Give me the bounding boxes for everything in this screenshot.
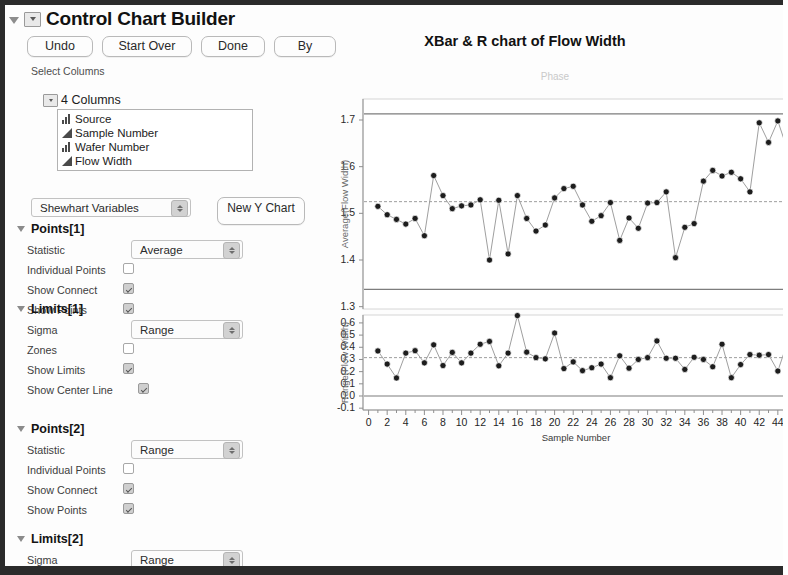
data-point[interactable] bbox=[719, 341, 725, 347]
data-point[interactable] bbox=[775, 118, 781, 124]
section-header-points2[interactable]: Points[2] bbox=[17, 422, 84, 436]
data-point[interactable] bbox=[765, 351, 771, 357]
data-point[interactable] bbox=[663, 189, 669, 195]
data-point[interactable] bbox=[617, 237, 623, 243]
data-point[interactable] bbox=[728, 169, 734, 175]
list-item[interactable]: Sample Number bbox=[62, 126, 252, 140]
data-point[interactable] bbox=[579, 368, 585, 374]
list-item[interactable]: Flow Width bbox=[62, 154, 252, 168]
section-header-limits2[interactable]: Limits[2] bbox=[17, 532, 83, 546]
data-point[interactable] bbox=[384, 361, 390, 367]
data-point[interactable] bbox=[570, 359, 576, 365]
chevron-updown-icon[interactable] bbox=[223, 322, 240, 339]
data-point[interactable] bbox=[589, 218, 595, 224]
data-point[interactable] bbox=[505, 350, 511, 356]
data-point[interactable] bbox=[496, 363, 502, 369]
data-point[interactable] bbox=[477, 197, 483, 203]
list-item[interactable]: Source bbox=[62, 112, 252, 126]
triangle-down-icon[interactable] bbox=[17, 426, 25, 432]
triangle-down-icon[interactable] bbox=[17, 306, 25, 312]
data-point[interactable] bbox=[384, 212, 390, 218]
data-point[interactable] bbox=[765, 139, 771, 145]
data-point[interactable] bbox=[449, 206, 455, 212]
checkbox-individual-points[interactable] bbox=[123, 463, 134, 474]
triangle-down-icon[interactable] bbox=[17, 226, 25, 232]
data-point[interactable] bbox=[375, 348, 381, 354]
data-point[interactable] bbox=[449, 349, 455, 355]
columns-popup-icon[interactable] bbox=[43, 94, 58, 107]
data-point[interactable] bbox=[440, 362, 446, 368]
undo-button[interactable]: Undo bbox=[27, 36, 93, 57]
triangle-down-icon[interactable] bbox=[17, 536, 25, 542]
popup-menu-icon[interactable] bbox=[24, 12, 41, 27]
data-point[interactable] bbox=[617, 353, 623, 359]
data-point[interactable] bbox=[710, 167, 716, 173]
data-point[interactable] bbox=[440, 193, 446, 199]
data-point[interactable] bbox=[710, 364, 716, 370]
data-point[interactable] bbox=[700, 356, 706, 362]
data-point[interactable] bbox=[514, 193, 520, 199]
data-point[interactable] bbox=[542, 356, 548, 362]
data-point[interactable] bbox=[579, 202, 585, 208]
data-point[interactable] bbox=[672, 255, 678, 261]
columns-list[interactable]: Source Sample Number Wafer Number Flow W… bbox=[57, 109, 253, 171]
data-point[interactable] bbox=[672, 355, 678, 361]
chart-type-select[interactable]: Shewhart Variables bbox=[31, 198, 191, 217]
data-point[interactable] bbox=[654, 338, 660, 344]
data-point[interactable] bbox=[738, 361, 744, 367]
data-point[interactable] bbox=[700, 178, 706, 184]
data-point[interactable] bbox=[738, 176, 744, 182]
done-button[interactable]: Done bbox=[201, 36, 265, 57]
data-point[interactable] bbox=[561, 365, 567, 371]
triangle-down-icon[interactable] bbox=[9, 17, 19, 24]
data-point[interactable] bbox=[607, 200, 613, 206]
data-point[interactable] bbox=[524, 349, 530, 355]
data-point[interactable] bbox=[477, 341, 483, 347]
data-point[interactable] bbox=[645, 200, 651, 206]
data-point[interactable] bbox=[747, 351, 753, 357]
data-point[interactable] bbox=[393, 375, 399, 381]
chevron-updown-icon[interactable] bbox=[223, 552, 240, 566]
start-over-button[interactable]: Start Over bbox=[102, 36, 192, 57]
data-point[interactable] bbox=[645, 355, 651, 361]
data-point[interactable] bbox=[421, 360, 427, 366]
data-point[interactable] bbox=[756, 120, 762, 126]
data-point[interactable] bbox=[486, 257, 492, 263]
checkbox-show-limits[interactable] bbox=[123, 363, 134, 374]
data-point[interactable] bbox=[496, 197, 502, 203]
data-point[interactable] bbox=[747, 189, 753, 195]
data-point[interactable] bbox=[468, 202, 474, 208]
property-select-sigma[interactable]: Range bbox=[131, 320, 243, 339]
columns-group-header[interactable]: 4 Columns bbox=[43, 93, 121, 107]
data-point[interactable] bbox=[663, 355, 669, 361]
data-point[interactable] bbox=[505, 251, 511, 257]
data-point[interactable] bbox=[691, 354, 697, 360]
list-item[interactable]: Wafer Number bbox=[62, 140, 252, 154]
data-point[interactable] bbox=[635, 225, 641, 231]
property-select-sigma[interactable]: Range bbox=[131, 550, 243, 566]
data-point[interactable] bbox=[403, 221, 409, 227]
data-point[interactable] bbox=[458, 360, 464, 366]
data-point[interactable] bbox=[719, 173, 725, 179]
data-point[interactable] bbox=[728, 375, 734, 381]
data-point[interactable] bbox=[589, 365, 595, 371]
new-y-chart-button[interactable]: New Y Chart bbox=[217, 197, 305, 225]
data-point[interactable] bbox=[552, 195, 558, 201]
checkbox-show-points[interactable] bbox=[123, 503, 134, 514]
data-point[interactable] bbox=[431, 172, 437, 178]
chevron-updown-icon[interactable] bbox=[223, 442, 240, 459]
data-point[interactable] bbox=[635, 356, 641, 362]
chevron-updown-icon[interactable] bbox=[223, 242, 240, 259]
property-select-statistic[interactable]: Range bbox=[131, 440, 243, 459]
data-point[interactable] bbox=[598, 361, 604, 367]
data-point[interactable] bbox=[542, 222, 548, 228]
data-point[interactable] bbox=[607, 375, 613, 381]
data-point[interactable] bbox=[626, 215, 632, 221]
data-point[interactable] bbox=[756, 352, 762, 358]
data-point[interactable] bbox=[570, 183, 576, 189]
data-point[interactable] bbox=[533, 355, 539, 361]
data-point[interactable] bbox=[691, 221, 697, 227]
data-point[interactable] bbox=[552, 330, 558, 336]
data-point[interactable] bbox=[524, 215, 530, 221]
data-point[interactable] bbox=[403, 350, 409, 356]
